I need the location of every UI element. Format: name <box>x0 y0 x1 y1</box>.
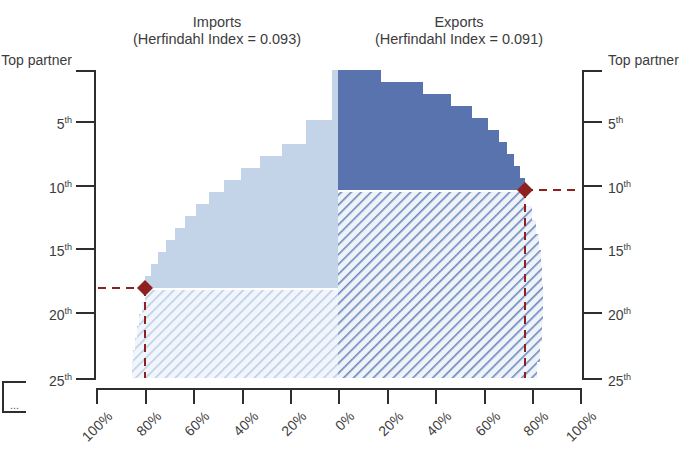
right-axis-label-25-num: 25 <box>608 373 624 389</box>
x-axis-label-1: 80% <box>121 408 164 450</box>
x-axis-label-8: 60% <box>460 408 503 450</box>
left-axis-label-5-suffix: th <box>64 115 72 125</box>
right-axis-label-20-suffix: th <box>624 306 632 316</box>
left-axis-label-15-suffix: th <box>64 242 72 252</box>
imports-solid-top <box>306 70 338 132</box>
right-axis-tick-5 <box>582 121 602 123</box>
right-axis-label-top-text: Top partner <box>608 52 679 68</box>
left-axis-label-20-num: 20 <box>49 307 65 323</box>
right-axis-label-25-suffix: th <box>624 372 632 382</box>
x-axis-tick-l60 <box>193 388 195 404</box>
right-axis-label-5: 5th <box>608 113 623 132</box>
left-axis-label-top-text: Top partner <box>1 52 72 68</box>
imports-solid-area <box>145 70 338 288</box>
x-axis-tick-r20 <box>387 388 389 404</box>
left-axis-label-5: 5th <box>0 113 72 132</box>
left-axis-label-10-suffix: th <box>64 179 72 189</box>
chart-canvas: Imports (Herfindahl Index = 0.093) Expor… <box>0 0 679 450</box>
x-axis-tick-l20 <box>290 388 292 404</box>
x-axis-label-9: 80% <box>508 408 551 450</box>
x-axis-tick-r100 <box>580 388 582 404</box>
x-axis-label-4: 20% <box>266 408 309 450</box>
right-axis-tick-1 <box>582 70 602 72</box>
right-axis-label-top: Top partner <box>608 52 678 68</box>
left-axis-tick-5 <box>76 121 96 123</box>
left-axis-label-10-num: 10 <box>49 180 65 196</box>
x-axis-tick-l40 <box>242 388 244 404</box>
right-axis-label-5-num: 5 <box>608 116 616 132</box>
exports-solid-area <box>338 70 525 190</box>
x-axis-label-5: 0% <box>316 408 358 450</box>
right-axis-label-10-num: 10 <box>608 180 624 196</box>
left-axis-tick-10 <box>76 185 96 187</box>
left-axis-tick-25 <box>76 378 96 380</box>
imports-hatched-area <box>132 290 338 378</box>
left-axis-label-25-suffix: th <box>64 372 72 382</box>
right-axis-label-20-num: 20 <box>608 307 624 323</box>
x-axis-label-10: 100% <box>553 408 600 450</box>
right-axis-label-20: 20th <box>608 304 631 323</box>
x-axis-label-3: 40% <box>218 408 261 450</box>
left-axis-label-20-suffix: th <box>64 306 72 316</box>
right-axis-label-10: 10th <box>608 177 631 196</box>
x-axis-label-0: 100% <box>69 408 116 450</box>
right-axis-label-25: 25th <box>608 370 631 389</box>
right-axis-label-15: 15th <box>608 240 631 259</box>
exports-title-line1: Exports <box>338 14 580 31</box>
imports-title-line1: Imports <box>96 14 338 31</box>
plot-area <box>96 70 580 378</box>
x-axis-label-6: 20% <box>363 408 406 450</box>
x-axis-tick-l100 <box>96 388 98 404</box>
x-axis-tick-r80 <box>532 388 534 404</box>
exports-title-line2: (Herfindahl Index = 0.091) <box>338 31 580 48</box>
x-axis-tick-l80 <box>145 388 147 404</box>
left-axis-label-top: Top partner <box>0 52 72 68</box>
right-axis-tick-25 <box>582 378 602 380</box>
right-axis-spine <box>582 70 584 380</box>
left-axis-label-15-num: 15 <box>49 243 65 259</box>
left-axis-tick-20 <box>76 312 96 314</box>
left-axis-label-15: 15th <box>0 240 72 259</box>
x-axis-tick-r40 <box>435 388 437 404</box>
cropped-corner-artifact: ... <box>2 381 26 413</box>
distribution-svg <box>96 70 580 378</box>
left-axis-tick-1 <box>76 70 96 72</box>
exports-hatched-area <box>338 192 543 378</box>
left-axis-label-25-num: 25 <box>49 373 65 389</box>
right-axis-label-15-suffix: th <box>624 242 632 252</box>
left-axis-tick-15 <box>76 248 96 250</box>
x-axis-label-7: 40% <box>411 408 454 450</box>
exports-panel-title: Exports (Herfindahl Index = 0.091) <box>338 14 580 47</box>
left-axis-label-20: 20th <box>0 304 72 323</box>
cropped-corner-text: ... <box>10 399 19 411</box>
x-axis-label-2: 60% <box>169 408 212 450</box>
right-axis-label-5-suffix: th <box>616 115 624 125</box>
left-axis-spine <box>94 70 96 380</box>
right-axis-label-10-suffix: th <box>624 179 632 189</box>
imports-panel-title: Imports (Herfindahl Index = 0.093) <box>96 14 338 47</box>
imports-title-line2: (Herfindahl Index = 0.093) <box>96 31 338 48</box>
x-axis-tick-0 <box>338 388 340 404</box>
right-axis-label-15-num: 15 <box>608 243 624 259</box>
right-axis-tick-20 <box>582 312 602 314</box>
left-axis-label-10: 10th <box>0 177 72 196</box>
x-axis-tick-r60 <box>484 388 486 404</box>
right-axis-tick-10 <box>582 185 602 187</box>
right-axis-tick-15 <box>582 248 602 250</box>
